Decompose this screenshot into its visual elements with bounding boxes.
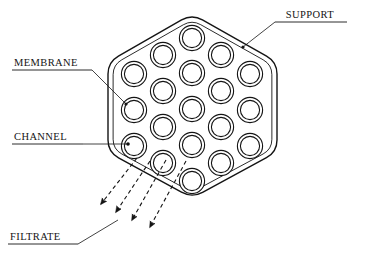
channel-bore-inner-circle (211, 45, 230, 64)
callout-support: SUPPORT (241, 9, 347, 49)
diagram-page: SUPPORTMEMBRANECHANNELFILTRATE (0, 0, 375, 257)
channel-bore-inner-circle (211, 153, 230, 172)
leader-line-support (243, 22, 275, 47)
membrane-cross-section-diagram: SUPPORTMEMBRANECHANNELFILTRATE (0, 0, 375, 257)
channel-ring (179, 168, 204, 193)
channel-bore-inner-circle (182, 171, 201, 190)
channel-ring (150, 150, 175, 175)
channel-bore-inner-circle (240, 64, 259, 83)
channel-ring (150, 114, 175, 139)
channel-ring (179, 60, 204, 85)
channel-ring (179, 96, 204, 121)
channel-ring (121, 61, 146, 86)
callout-filtrate: FILTRATE (8, 220, 118, 244)
label-support: SUPPORT (286, 9, 334, 20)
leader-target-dot-channel (126, 142, 130, 146)
channel-bore-inner-circle (211, 81, 230, 100)
leader-target-dot-support (241, 45, 244, 48)
channel-bore-inner-circle (153, 81, 172, 100)
channel-ring (179, 25, 204, 50)
channel-bore-inner-circle (182, 28, 201, 47)
channel-bore-inner-circle (153, 45, 172, 64)
channel-bore-inner-circle (240, 100, 259, 119)
channel-bore-inner-circle (211, 117, 230, 136)
channel-bore-inner-circle (153, 117, 172, 136)
channel-ring (237, 133, 262, 158)
channel-ring (150, 78, 175, 103)
label-membrane: MEMBRANE (14, 57, 78, 68)
filtrate-flow-arrow (101, 158, 137, 204)
label-channel: CHANNEL (14, 131, 67, 142)
channel-bore-inner-circle (240, 136, 259, 155)
channel-ring (237, 97, 262, 122)
channel-ring (121, 133, 146, 158)
channel-ring (179, 132, 204, 157)
channel-ring (208, 78, 233, 103)
channel-bore-inner-circle (124, 64, 143, 83)
channel-bore-inner-circle (124, 136, 143, 155)
channel-bore-inner-circle (182, 63, 201, 82)
leader-line-filtrate (78, 220, 118, 244)
channel-bore-inner-circle (182, 99, 201, 118)
channel-ring (237, 61, 262, 86)
filtrate-flow-arrow (116, 161, 150, 212)
channel-ring (208, 150, 233, 175)
channel-bore-inner-circle (182, 135, 201, 154)
channel-ring (208, 114, 233, 139)
channel-ring (208, 42, 233, 67)
label-filtrate: FILTRATE (10, 231, 61, 242)
channel-ring (121, 97, 146, 122)
channel-bore-inner-circle (153, 153, 172, 172)
channel-ring (150, 42, 175, 67)
leader-target-dot-membrane (124, 102, 127, 105)
